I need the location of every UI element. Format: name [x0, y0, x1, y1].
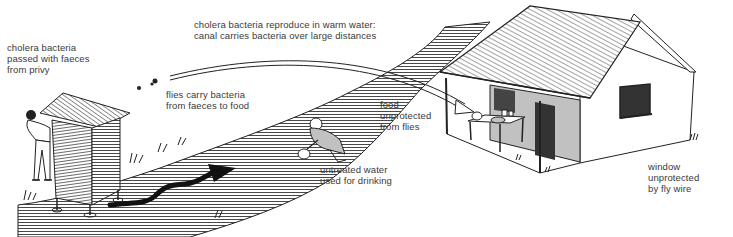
label-flies: flies carry bacteria from faeces to food	[166, 89, 249, 111]
label-privy: cholera bacteria passed with faeces from…	[7, 42, 90, 75]
flies	[137, 79, 158, 91]
label-food: food unprotected from flies	[380, 99, 431, 132]
label-window: window unprotected by fly wire	[648, 161, 699, 194]
label-water: untreated water used for drinking	[320, 164, 392, 186]
cholera-transmission-diagram: cholera bacteria passed with faeces from…	[0, 0, 733, 237]
label-canal: cholera bacteria reproduce in warm water…	[194, 19, 376, 41]
man-leaving-privy	[26, 110, 52, 180]
